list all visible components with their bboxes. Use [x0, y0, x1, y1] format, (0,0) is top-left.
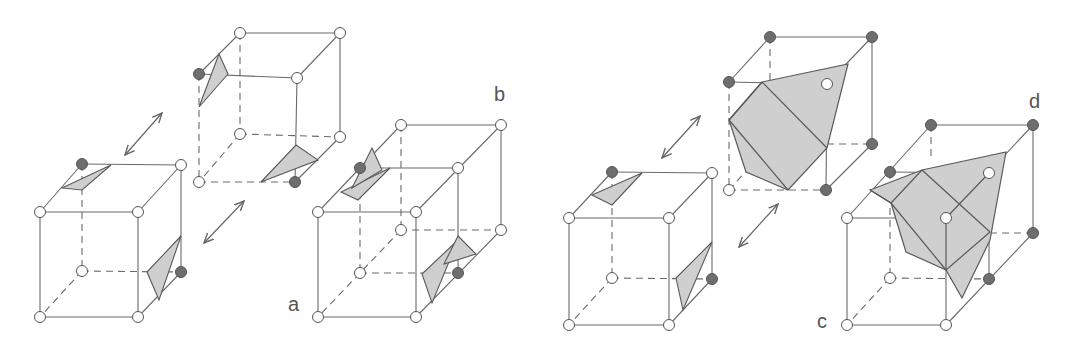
- double-arrow-lower-left: [204, 201, 244, 243]
- panel-label-a: a: [288, 294, 299, 314]
- marching-cubes-figure: a b c d: [0, 0, 1071, 340]
- cube-c-left: [569, 172, 712, 325]
- double-arrow-lower-right: [739, 204, 778, 247]
- panel-label-b: b: [494, 84, 505, 104]
- panel-label-d: d: [1029, 91, 1040, 111]
- double-arrow-upper-left: [125, 113, 162, 155]
- isosurface-patches-c: [592, 173, 712, 310]
- cube-b-pair: [318, 125, 501, 317]
- double-arrow-upper-right: [662, 116, 700, 158]
- panel-label-c: c: [817, 311, 827, 331]
